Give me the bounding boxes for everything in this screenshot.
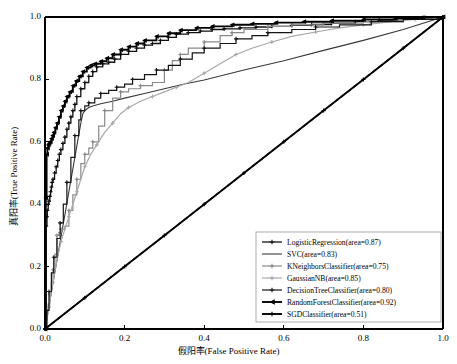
x-tick-label: 0.4 xyxy=(193,333,215,343)
x-tick-label: 0.2 xyxy=(114,333,136,343)
y-tick-label: 0.4 xyxy=(17,198,41,208)
legend-label: SVC(area=0.83) xyxy=(287,250,338,259)
legend-label: DecisionTreeClassifier(area=0.80) xyxy=(287,286,392,295)
legend-box: LogisticRegression(area=0.87)SVC(area=0.… xyxy=(256,232,441,322)
legend-label: KNeighborsClassifier(area=0.75) xyxy=(287,262,389,271)
legend-label: LogisticRegression(area=0.87) xyxy=(287,238,381,247)
y-axis-label: 真阳率(True Positive Rate) xyxy=(7,102,20,252)
x-tick-label: 0.6 xyxy=(273,333,295,343)
y-tick-label: 0.8 xyxy=(17,73,41,83)
legend-label: RandomForestClassifier(area=0.92) xyxy=(287,298,397,307)
roc-curve-figure: LogisticRegression(area=0.87)SVC(area=0.… xyxy=(0,0,457,364)
legend-label: GaussianNB(area=0.85) xyxy=(287,274,361,283)
y-tick-label: 1.0 xyxy=(17,11,41,21)
x-tick-label: 1.0 xyxy=(432,333,454,343)
legend-label: SGDClassifier(area=0.51) xyxy=(287,310,367,319)
y-tick-label: 0.6 xyxy=(17,136,41,146)
roc-plot-svg: LogisticRegression(area=0.87)SVC(area=0.… xyxy=(0,0,457,364)
y-tick-label: 0.0 xyxy=(17,323,41,333)
x-axis-label: 假阳率(False Positive Rate) xyxy=(0,344,457,357)
x-tick-label: 0.0 xyxy=(34,333,56,343)
x-tick-label: 0.8 xyxy=(352,333,374,343)
y-tick-label: 0.2 xyxy=(17,261,41,271)
